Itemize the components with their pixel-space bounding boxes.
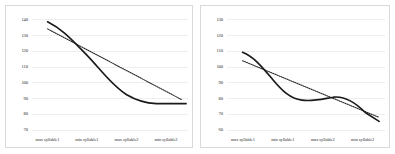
left-chart-xlabel-min-syllable2: min syllable2 [154, 138, 177, 142]
left-chart-gridlines [32, 20, 188, 130]
right-chart-xlabel-min-syllable2: min syllable2 [351, 138, 374, 142]
left-chart-ytick-140: 140 [6, 18, 28, 23]
right-chart-ytick-130: 130 [201, 18, 223, 23]
right-chart-panel: 130 120 110 100 90 80 70 60 max syllable… [197, 0, 395, 154]
right-chart-observed-series [243, 52, 380, 121]
right-chart-ytick-120: 120 [201, 33, 223, 38]
right-chart-xlabel-min-syllable1: min syllable1 [271, 138, 294, 142]
right-chart-plot-svg [201, 6, 389, 147]
left-chart-panel: 140 130 120 110 100 90 80 70 max syllabl… [0, 0, 197, 154]
left-chart-trend-series [48, 29, 183, 100]
left-chart-plot-frame: 140 130 120 110 100 90 80 70 max syllabl… [5, 5, 193, 148]
left-chart-plot-svg [6, 6, 192, 147]
left-chart-ytick-130: 130 [6, 33, 28, 38]
left-chart-xlabel-max-syllable1: max syllable1 [36, 138, 60, 142]
right-chart-ytick-80: 80 [201, 96, 223, 101]
right-chart-ytick-70: 70 [201, 112, 223, 117]
left-chart-ytick-90: 90 [6, 96, 28, 101]
right-chart-plot-frame: 130 120 110 100 90 80 70 60 max syllable… [200, 5, 390, 148]
left-chart-ytick-110: 110 [6, 65, 28, 70]
right-chart-ytick-90: 90 [201, 81, 223, 86]
right-chart-ytick-100: 100 [201, 65, 223, 70]
right-chart-xlabel-max-syllable2: max syllable2 [311, 138, 335, 142]
left-chart-ytick-100: 100 [6, 81, 28, 86]
left-chart-ytick-70: 70 [6, 128, 28, 133]
left-chart-ytick-120: 120 [6, 49, 28, 54]
right-chart-gridlines [227, 20, 385, 130]
right-chart-ytick-60: 60 [201, 128, 223, 133]
right-chart-ytick-110: 110 [201, 49, 223, 54]
two-panel-line-chart-figure: 140 130 120 110 100 90 80 70 max syllabl… [0, 0, 395, 154]
left-chart-xlabel-max-syllable2: max syllable2 [115, 138, 139, 142]
left-chart-ytick-80: 80 [6, 112, 28, 117]
left-chart-xlabel-min-syllable1: min syllable1 [75, 138, 98, 142]
right-chart-xlabel-max-syllable1: max syllable1 [231, 138, 255, 142]
